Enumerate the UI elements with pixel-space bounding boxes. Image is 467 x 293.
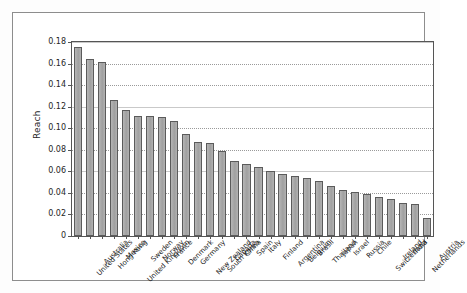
bar <box>291 176 299 236</box>
bar <box>339 190 347 236</box>
bar <box>327 186 335 236</box>
bar <box>363 194 371 236</box>
bar <box>134 116 142 236</box>
y-axis-tick-label: 0.16 <box>48 60 66 68</box>
bar <box>158 117 166 236</box>
bar <box>303 178 311 236</box>
bar <box>182 134 190 236</box>
bar <box>230 161 238 236</box>
y-axis-tick-label: 0.06 <box>48 167 66 175</box>
bar <box>387 199 395 236</box>
y-axis-tick <box>68 214 72 215</box>
plot-area: 00.020.040.060.080.100.120.140.160.18 <box>71 41 434 237</box>
bar <box>218 151 226 236</box>
y-axis-tick-label: 0.02 <box>48 210 66 218</box>
bar <box>98 62 106 236</box>
y-axis-tick <box>68 128 72 129</box>
y-axis-tick-label: 0.12 <box>48 103 66 111</box>
bar <box>411 204 419 236</box>
bar <box>170 121 178 236</box>
y-axis-tick <box>68 150 72 151</box>
bar <box>146 116 154 236</box>
y-axis-tick-label: 0.14 <box>48 81 66 89</box>
y-axis-tick-label: 0.04 <box>48 189 66 197</box>
bar <box>351 192 359 236</box>
bar <box>86 59 94 236</box>
bar <box>375 197 383 236</box>
bar <box>194 142 202 236</box>
y-axis-tick <box>68 171 72 172</box>
bar <box>423 218 431 236</box>
y-axis-tick <box>68 64 72 65</box>
bar <box>254 167 262 236</box>
bar-series <box>72 42 433 236</box>
y-axis-tick <box>68 42 72 43</box>
y-axis-tick-label: 0 <box>61 232 66 240</box>
bar <box>110 100 118 236</box>
y-axis-tick <box>68 193 72 194</box>
y-axis-tick <box>68 85 72 86</box>
bar <box>206 143 214 236</box>
bar <box>74 47 82 236</box>
bar <box>278 174 286 237</box>
y-axis-tick-label: 0.18 <box>48 38 66 46</box>
bar <box>122 110 130 236</box>
figure-frame: Reach 00.020.040.060.080.100.120.140.160… <box>12 12 425 281</box>
y-axis-tick-label: 0.10 <box>48 124 66 132</box>
y-axis-title: Reach <box>32 110 42 139</box>
bar <box>399 203 407 236</box>
bar <box>242 164 250 236</box>
y-axis-tick <box>68 107 72 108</box>
y-axis-tick <box>68 236 72 237</box>
bar <box>266 171 274 236</box>
y-axis-tick-label: 0.08 <box>48 146 66 154</box>
x-axis-labels: United StatesAustraliaHong KongMexicoUni… <box>71 239 434 293</box>
bar <box>315 181 323 236</box>
